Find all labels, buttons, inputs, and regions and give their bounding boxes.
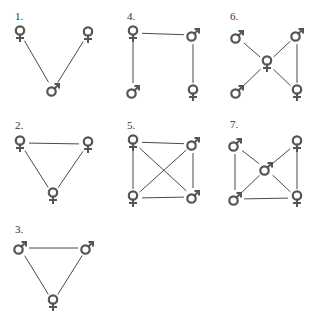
diagram-label: 2. bbox=[15, 119, 24, 131]
diagram-label: 7. bbox=[230, 118, 239, 130]
diagram-label: 1. bbox=[15, 10, 24, 22]
network-diagrams-canvas: 1.4.6.2.5.7.3. bbox=[0, 0, 312, 321]
diagram-label: 3. bbox=[15, 223, 24, 235]
diagram-label: 6. bbox=[230, 10, 239, 22]
background bbox=[0, 0, 312, 321]
diagram-label: 5. bbox=[127, 119, 136, 131]
diagram-label: 4. bbox=[127, 10, 136, 22]
